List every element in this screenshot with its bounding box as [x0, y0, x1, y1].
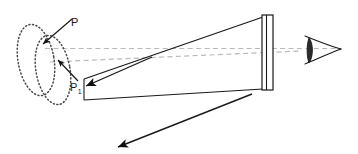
ray-lower-arrow	[118, 94, 252, 147]
label-point-p1-subscript: 1	[78, 88, 82, 95]
optics-diagram-canvas: P P1	[0, 0, 358, 154]
optical-axis-group	[45, 49, 336, 63]
label-point-p1: P1	[70, 81, 82, 95]
screen-plate	[262, 15, 273, 90]
front-wavefront-ellipse-icon	[30, 33, 76, 108]
observer-eye-icon	[305, 36, 341, 64]
label-pointers	[43, 19, 78, 81]
cone-edge-bottom	[84, 89, 263, 100]
eye-pupil-lens	[307, 38, 312, 63]
label-point-p: P	[71, 16, 78, 28]
wavefront-ellipses	[12, 21, 76, 107]
cone-edge-top	[84, 17, 263, 79]
ray-upper-arrow	[86, 57, 152, 86]
ray-arrows	[86, 57, 252, 147]
back-wavefront-ellipse-icon	[12, 21, 60, 98]
screen-plate-body	[262, 15, 273, 90]
optics-diagram-svg: P P1	[0, 0, 358, 154]
label-point-p1-base: P	[70, 81, 77, 93]
light-cone	[84, 17, 263, 100]
pointer-to-p1	[58, 60, 78, 81]
